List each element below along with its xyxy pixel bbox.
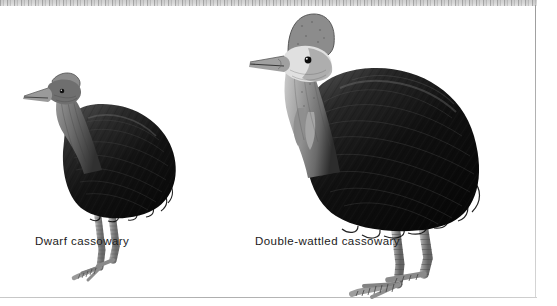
caption-dwarf-cassowary: Dwarf cassowary [35, 235, 129, 247]
dwarf-cassowary-illustration [18, 64, 198, 290]
figure-dwarf-cassowary [18, 64, 198, 290]
double-wattled-eye [305, 57, 312, 64]
double-wattled-cassowary-illustration [248, 12, 498, 304]
double-wattled-foot-front [352, 284, 398, 297]
dwarf-foot-front [74, 267, 100, 280]
dwarf-head [23, 73, 81, 104]
illustration-plate: Dwarf cassowary Double-wattled cassowary [0, 0, 557, 306]
plate-canvas: Dwarf cassowary Double-wattled cassowary [0, 6, 537, 298]
caption-double-wattled-cassowary: Double-wattled cassowary [255, 235, 400, 247]
dwarf-eye [60, 89, 65, 94]
double-wattled-head [249, 14, 334, 82]
double-wattled-foot-back [388, 274, 424, 283]
figure-double-wattled-cassowary [248, 12, 498, 304]
